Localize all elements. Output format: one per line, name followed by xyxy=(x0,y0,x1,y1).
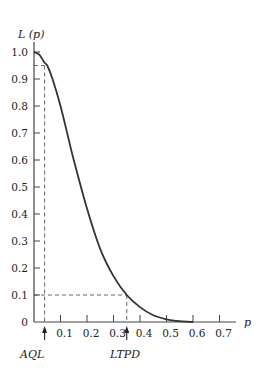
y-tick-label: 0 xyxy=(21,316,28,328)
arrow-up-icon xyxy=(42,326,47,333)
x-tick-label: 0.1 xyxy=(56,327,73,339)
x-axis-label: p xyxy=(244,316,251,329)
y-tick-label: 0.4 xyxy=(11,208,28,220)
y-tick-label: 0.6 xyxy=(11,154,28,166)
aql-label: AQL xyxy=(19,348,44,361)
y-tick-label: 0.2 xyxy=(11,262,28,274)
x-tick-label: 0.5 xyxy=(162,327,179,339)
y-tick-label: 0.9 xyxy=(11,73,28,85)
x-tick-label: 0.3 xyxy=(109,327,126,339)
x-tick-label: 0.2 xyxy=(83,327,100,339)
y-axis-label: L (p) xyxy=(17,28,44,41)
y-tick-label: 0.8 xyxy=(11,100,28,112)
oc-curve-chart: L (p) 00.10.20.30.40.50.60.70.80.91.00.1… xyxy=(0,0,261,371)
guide-lines xyxy=(34,66,129,341)
x-tick-label: 0.4 xyxy=(136,327,153,339)
oc-curve xyxy=(34,52,193,322)
x-tick-label: 0.7 xyxy=(215,327,232,339)
y-tick-label: 0.3 xyxy=(11,235,28,247)
y-tick-label: 0.7 xyxy=(11,127,28,139)
y-tick-label: 1.0 xyxy=(11,46,28,58)
y-tick-label: 0.1 xyxy=(11,289,28,301)
y-tick-label: 0.5 xyxy=(11,181,28,193)
x-tick-label: 0.6 xyxy=(189,327,206,339)
ltpd-label: LTPD xyxy=(109,348,140,361)
